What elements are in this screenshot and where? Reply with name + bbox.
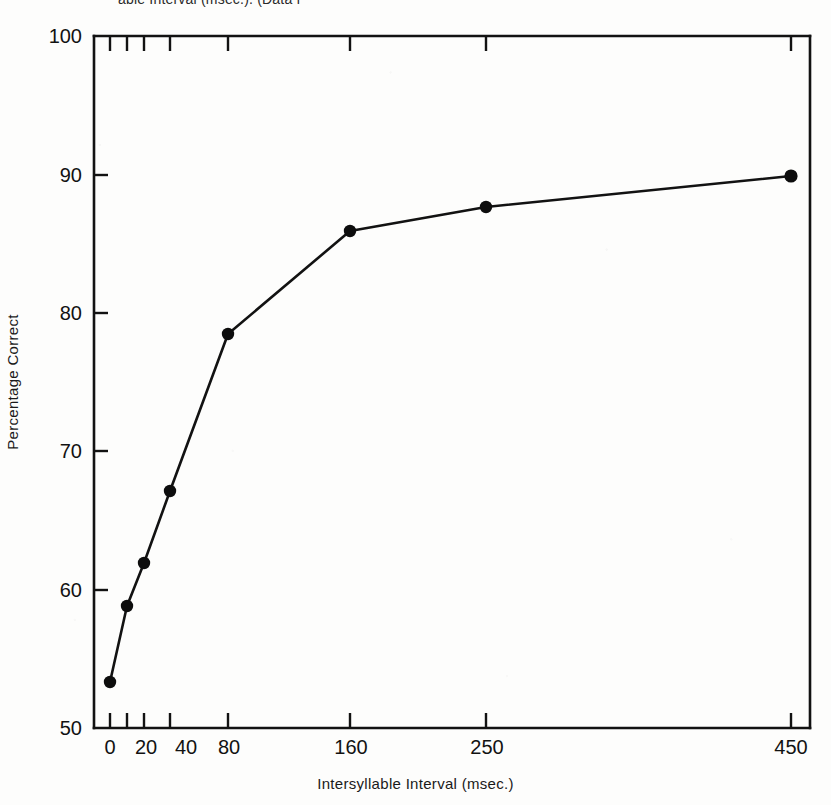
figure-container: 100 90 80 70 60 50 0 20 40 80 160 250 45…	[0, 0, 831, 805]
x-axis-ticks-top	[110, 36, 791, 51]
data-point-450ms	[784, 169, 797, 182]
series-line-percentage-correct	[110, 176, 791, 682]
data-point-160ms	[344, 225, 356, 237]
data-point-20ms	[138, 557, 150, 569]
y-tick-label-90: 90	[60, 164, 82, 187]
y-axis-ticks	[94, 175, 108, 590]
y-tick-label-70: 70	[60, 440, 82, 463]
series-markers	[104, 169, 798, 688]
x-axis-ticks-bottom	[110, 713, 791, 728]
x-tick-label-80: 80	[218, 736, 240, 759]
data-point-0ms	[104, 676, 116, 688]
x-tick-label-250: 250	[470, 736, 503, 759]
y-tick-label-60: 60	[60, 579, 82, 602]
x-tick-label-20: 20	[135, 736, 157, 759]
axis-frame	[94, 36, 810, 728]
x-tick-label-450: 450	[774, 736, 807, 759]
y-axis-title: Percentage Correct	[4, 314, 21, 449]
data-point-10ms	[121, 600, 133, 612]
x-tick-label-40: 40	[175, 736, 197, 759]
x-tick-label-0: 0	[104, 736, 115, 759]
data-point-40ms	[164, 485, 176, 497]
x-tick-label-160: 160	[334, 736, 367, 759]
data-point-80ms	[222, 328, 234, 340]
y-tick-label-50: 50	[60, 717, 82, 740]
y-tick-label-100: 100	[49, 25, 82, 48]
line-chart	[0, 0, 831, 805]
data-point-250ms	[480, 201, 492, 213]
x-axis-title: Intersyllable Interval (msec.)	[0, 775, 831, 792]
y-tick-label-80: 80	[60, 302, 82, 325]
